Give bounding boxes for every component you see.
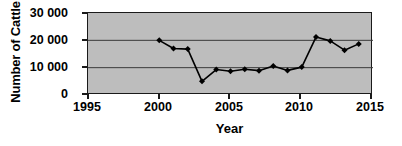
data-point-2005 bbox=[228, 68, 234, 74]
x-tick-mark-2015 bbox=[370, 94, 372, 99]
y-tick-label-20000: 20 000 bbox=[2, 34, 68, 47]
series-line bbox=[159, 37, 359, 81]
x-tick-label-2005: 2005 bbox=[199, 101, 259, 114]
x-tick-mark-2010 bbox=[299, 94, 301, 99]
data-point-2014 bbox=[356, 41, 362, 47]
data-point-2011 bbox=[313, 34, 319, 40]
x-tick-mark-1995 bbox=[87, 94, 89, 99]
data-point-2010 bbox=[299, 64, 305, 70]
data-point-2002 bbox=[185, 46, 191, 52]
gridlines bbox=[88, 40, 373, 67]
x-tick-mark-2005 bbox=[228, 94, 230, 99]
cattle-line-chart: Number of Cattle 30 000 20 000 10 000 0 … bbox=[0, 0, 402, 146]
data-point-2009 bbox=[285, 67, 291, 73]
x-tick-label-1995: 1995 bbox=[57, 101, 117, 114]
x-tick-mark-2000 bbox=[158, 94, 160, 99]
y-tick-label-10000: 10 000 bbox=[2, 61, 68, 74]
x-tick-label-2000: 2000 bbox=[128, 101, 188, 114]
data-point-2007 bbox=[256, 68, 262, 74]
x-tick-label-2015: 2015 bbox=[340, 101, 400, 114]
x-tick-label-2010: 2010 bbox=[269, 101, 329, 114]
y-tick-label-30000: 30 000 bbox=[2, 7, 68, 20]
x-axis-title: Year bbox=[87, 122, 372, 135]
plot-area bbox=[87, 12, 372, 94]
series-markers bbox=[156, 34, 362, 84]
plot-svg bbox=[88, 13, 373, 95]
y-tick-label-0: 0 bbox=[2, 88, 68, 101]
